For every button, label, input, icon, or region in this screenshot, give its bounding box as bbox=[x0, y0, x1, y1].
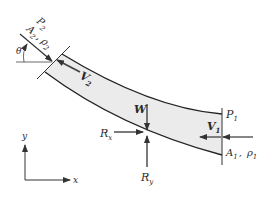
y-axis-label: y bbox=[21, 131, 28, 141]
theta-label: θ bbox=[16, 46, 22, 56]
ry-label: Ry bbox=[140, 171, 154, 186]
a1-rho1-label: A1,ρ1 bbox=[225, 147, 257, 161]
theta-arc-icon bbox=[23, 44, 27, 62]
svg-text:A2,ρ2: A2,ρ2 bbox=[22, 22, 55, 53]
pipe-control-volume-diagram: P2 A2,ρ2 θ V2 P1 V1 A1,ρ1 W Rx Ry y x bbox=[0, 0, 268, 197]
rx-label: Rx bbox=[99, 127, 112, 142]
weight-label: W bbox=[134, 103, 148, 116]
p1-label: P1 bbox=[225, 108, 238, 123]
a2-rho2-label: A2,ρ2 bbox=[22, 22, 55, 53]
x-axis-label: x bbox=[73, 175, 78, 185]
